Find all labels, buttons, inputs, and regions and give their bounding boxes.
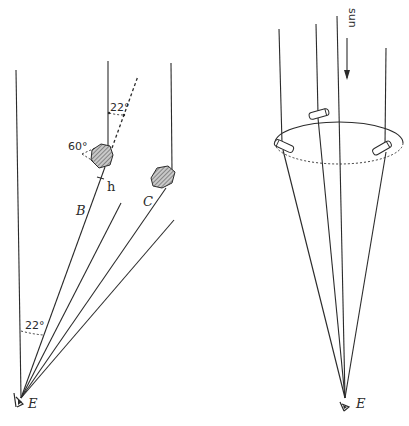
sun-ray-center: [337, 16, 345, 398]
eye-label: E: [355, 396, 366, 411]
prism-angle-label: 60°: [68, 140, 88, 153]
height-label: h: [107, 179, 116, 194]
top-angle-label: 22°: [110, 101, 130, 114]
sun-label: sun: [346, 8, 359, 28]
ice-crystal-c: [151, 166, 175, 188]
ray-c-label: C: [143, 194, 153, 209]
ray-2: [21, 203, 121, 398]
eye-label: E: [27, 396, 38, 411]
bottom-angle-label: 22°: [25, 319, 45, 332]
sun-ray-c: [171, 63, 172, 172]
ray-c: [21, 188, 166, 398]
left-diagram: 22° 60° h B C 22° E: [14, 61, 175, 411]
cone-ray-back: [318, 118, 345, 398]
ice-crystal-top: [308, 108, 329, 120]
sun-ray-2: [316, 24, 318, 114]
arc-end-dot: [123, 114, 125, 116]
cone-ray-left: [283, 150, 345, 398]
ray-4: [21, 220, 174, 398]
right-diagram: sun E: [273, 8, 403, 411]
vertical-reference-line: [16, 70, 21, 398]
ray-b-label: B: [75, 203, 86, 218]
arrow-head-icon: [344, 70, 350, 80]
ray-b: [21, 167, 105, 398]
ice-crystal-right: [372, 140, 393, 156]
halo-diagram: 22° 60° h B C 22° E sun: [0, 0, 409, 426]
sun-ray-4: [385, 48, 386, 145]
ice-crystal-b: [91, 144, 113, 168]
sun-ray-1: [279, 29, 282, 143]
cone-ray-right: [345, 152, 386, 398]
eye-icon: [340, 402, 349, 411]
ice-crystal-left: [273, 139, 294, 154]
